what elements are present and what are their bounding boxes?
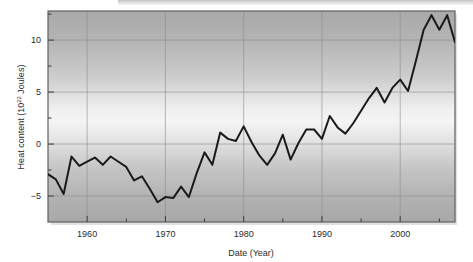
y-tick-label-5: 5 bbox=[36, 87, 41, 97]
y-axis-title-prefix: Heat content (10 bbox=[16, 103, 26, 170]
y-axis-title-suffix: Joules) bbox=[16, 65, 26, 97]
y-axis-tick-labels: −50510 bbox=[31, 35, 41, 201]
ocean-heat-content-line-chart: 19601970198019902000 −50510 Date (Year) … bbox=[0, 0, 473, 262]
x-axis-tick-labels: 19601970198019902000 bbox=[77, 229, 410, 239]
plot-area-background bbox=[48, 11, 455, 222]
x-axis-title: Date (Year) bbox=[228, 248, 274, 258]
svg-text:Heat content (1022 Joules): Heat content (1022 Joules) bbox=[16, 65, 26, 170]
y-tick-label-0: 0 bbox=[36, 139, 41, 149]
x-tick-label-1980: 1980 bbox=[234, 229, 254, 239]
figure-container: 19601970198019902000 −50510 Date (Year) … bbox=[0, 0, 473, 262]
x-tick-label-1970: 1970 bbox=[155, 229, 175, 239]
x-tick-label-1960: 1960 bbox=[77, 229, 97, 239]
x-tick-label-1990: 1990 bbox=[312, 229, 332, 239]
y-axis-title: Heat content (1022 Joules) bbox=[16, 65, 26, 170]
y-tick-label--5: −5 bbox=[31, 191, 41, 201]
y-tick-label-10: 10 bbox=[31, 35, 41, 45]
x-tick-label-2000: 2000 bbox=[390, 229, 410, 239]
